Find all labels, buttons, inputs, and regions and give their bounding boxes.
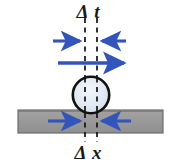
delta-x-label: Δ x <box>0 143 177 162</box>
rolling-ball <box>73 77 109 113</box>
physics-diagram: Δ t <box>0 0 177 168</box>
